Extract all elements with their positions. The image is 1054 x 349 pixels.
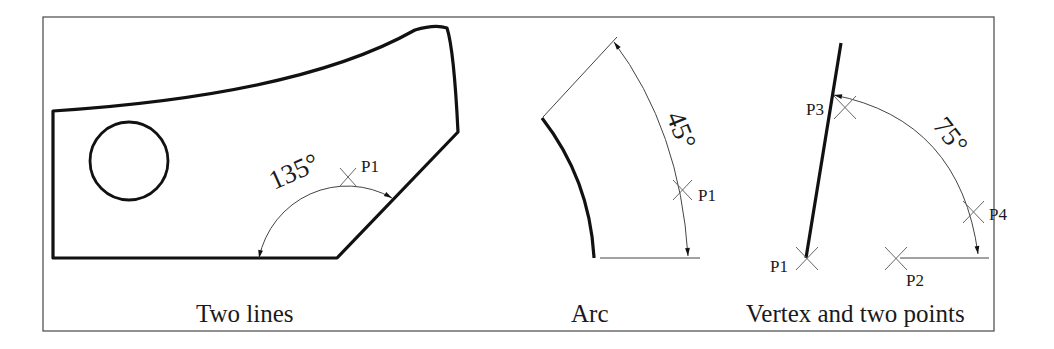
pick-point-p3-icon: [834, 96, 856, 119]
point-label-p2: P2: [906, 271, 924, 290]
caption-arc: Arc: [571, 300, 608, 327]
figure-frame: [43, 17, 994, 331]
panel-vertex: P1 P2 P3 P4 75° Vertex and two points: [746, 43, 1007, 327]
selected-arc: [542, 118, 594, 258]
point-label-p1: P1: [361, 157, 379, 176]
caption-vertex: Vertex and two points: [746, 300, 965, 327]
point-label-p1: P1: [770, 257, 788, 276]
caption-two-lines: Two lines: [196, 300, 294, 327]
pick-point-p1-icon: [340, 168, 356, 186]
panel-arc: P1 45° Arc: [542, 37, 716, 327]
panel-two-lines: P1 135° Two lines: [53, 26, 458, 327]
angular-dimension-diagram: P1 135° Two lines P1 45° Arc P1: [0, 0, 1054, 349]
part-outline: [53, 26, 458, 258]
pick-point-p1-icon: [673, 180, 692, 200]
hole-circle: [90, 122, 168, 200]
angle-label-75: 75°: [927, 111, 974, 159]
angle-label-45: 45°: [660, 107, 702, 153]
selected-line: [806, 43, 841, 258]
extension-line-top: [543, 37, 617, 117]
point-label-p3: P3: [806, 100, 824, 119]
point-label-p4: P4: [989, 205, 1007, 224]
point-label-p1: P1: [698, 186, 716, 205]
angle-label-135: 135°: [264, 147, 323, 195]
pick-point-p4-icon: [963, 201, 984, 223]
